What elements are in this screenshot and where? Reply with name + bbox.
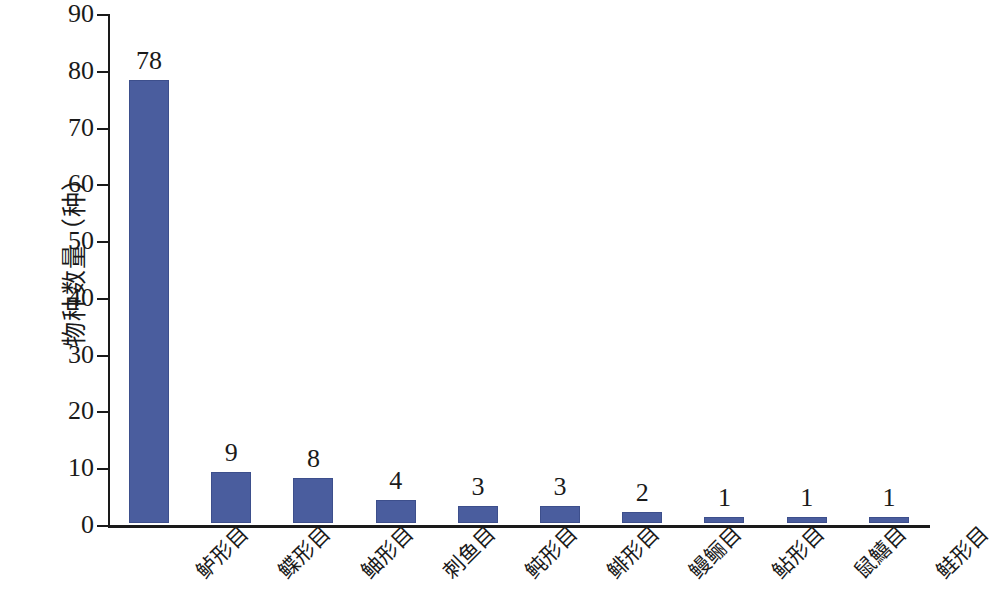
y-axis-tick-label: 70 [68,115,94,141]
bar[interactable] [787,517,827,523]
y-axis-tick [97,71,108,73]
bar-value-label: 4 [389,468,402,494]
bar-value-label: 9 [225,440,238,466]
bar[interactable] [293,478,333,523]
bar-value-label: 3 [554,474,567,500]
bar-group: 3 [437,12,519,523]
bar-value-label: 1 [882,485,895,511]
y-axis-tick-label: 10 [68,455,94,481]
bar[interactable] [211,472,251,523]
y-axis-tick-label: 20 [68,398,94,424]
x-axis-tick-label: 鲈形目 [194,523,253,582]
y-axis-tick [97,128,108,130]
y-axis-tick-label: 90 [68,1,94,27]
x-axis-tick-label-text: 鲀形目 [522,523,581,582]
x-axis-tick-label: 鲉形目 [358,523,417,582]
bar-value-label: 8 [307,446,320,472]
y-axis-tick [97,525,108,527]
bar-group: 1 [766,12,848,523]
bar-group: 8 [272,12,354,523]
bar[interactable] [704,517,744,523]
x-axis-tick-label-text: 鲈形目 [194,523,253,582]
x-axis-tick-label: 鲑形目 [933,523,992,582]
bar[interactable] [540,506,580,523]
bar-group: 3 [519,12,601,523]
x-axis-tick-label-text: 刺鱼目 [440,523,499,582]
bar[interactable] [458,506,498,523]
x-axis-tick-label-text: 鲽形目 [276,523,335,582]
x-axis-tick-label-text: 鲑形目 [933,523,992,582]
bar[interactable] [376,500,416,523]
x-axis-tick-label: 鳗鲡目 [687,523,746,582]
y-axis-tick [97,411,108,413]
x-axis-tick-label: 鲇形目 [769,523,828,582]
bar[interactable] [622,512,662,523]
y-axis-tick-label: 60 [68,171,94,197]
bar-value-label: 1 [718,485,731,511]
bar-value-label: 78 [136,48,162,74]
y-axis-tick-labels: 9080706050403020100 [24,14,94,527]
y-axis-tick [97,468,108,470]
x-axis-tick-label-text: 鳗鲡目 [687,523,746,582]
y-axis-tick-label: 40 [68,285,94,311]
y-axis-tick-label: 30 [68,342,94,368]
x-axis-tick-label: 鲀形目 [522,523,581,582]
bar-value-label: 2 [636,480,649,506]
x-axis-tick-label-text: 鼠鱚目 [851,523,910,582]
y-axis-tick-label: 0 [81,512,94,538]
y-axis-tick-label: 50 [68,228,94,254]
bar-value-label: 1 [800,485,813,511]
x-axis-tick-label-text: 鲱形目 [605,523,664,582]
bar-group: 78 [108,12,190,523]
x-axis-tick-label: 鼠鱚目 [851,523,910,582]
x-axis-tick-label: 刺鱼目 [440,523,499,582]
plot-area: 9080706050403020100 78984332111 [108,14,930,526]
x-axis-tick-label-text: 鲉形目 [358,523,417,582]
x-axis-tick-label: 鲽形目 [276,523,335,582]
y-axis-tick-label: 80 [68,58,94,84]
y-axis-tick [97,241,108,243]
bar[interactable] [869,517,909,523]
bar-group: 1 [848,12,930,523]
bar-group: 1 [683,12,765,523]
bar-value-label: 3 [471,474,484,500]
bar[interactable] [129,80,169,523]
y-axis-tick [97,14,108,16]
y-axis-tick [97,298,108,300]
y-axis-tick [97,355,108,357]
bar-group: 4 [355,12,437,523]
bar-group: 9 [190,12,272,523]
y-axis-tick [97,184,108,186]
x-axis-tick-label: 鲱形目 [605,523,664,582]
bar-group: 2 [601,12,683,523]
x-axis-tick-label-text: 鲇形目 [769,523,828,582]
